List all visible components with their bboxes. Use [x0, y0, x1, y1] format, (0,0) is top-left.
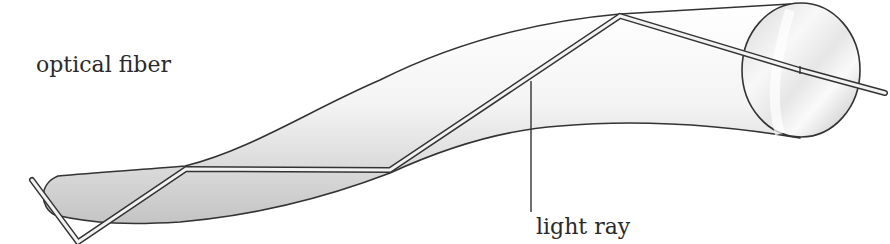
optical-fiber-label: optical fiber [36, 52, 171, 77]
optical-fiber-diagram [0, 0, 890, 244]
light-ray-label: light ray [536, 214, 630, 239]
